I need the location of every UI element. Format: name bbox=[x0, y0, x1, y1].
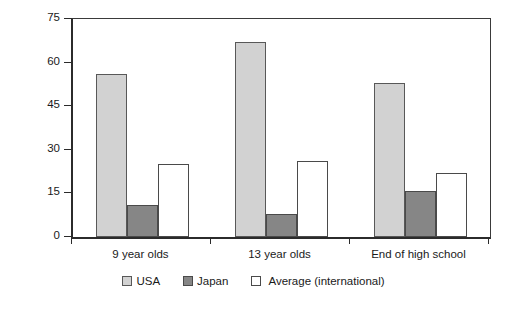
legend-item-label: Japan bbox=[197, 275, 228, 287]
y-axis-tick-label: 60 bbox=[32, 56, 60, 68]
y-axis-tick bbox=[64, 192, 71, 193]
bar-japan-group-2 bbox=[405, 191, 436, 238]
y-axis-tick-label: 45 bbox=[32, 99, 60, 111]
y-axis-tick bbox=[64, 105, 71, 106]
chart-legend: USAJapanAverage (international) bbox=[0, 275, 507, 287]
legend-item-usa[interactable]: USA bbox=[122, 275, 160, 287]
x-axis-tick bbox=[71, 238, 72, 244]
x-axis-category-label: 13 year olds bbox=[248, 248, 311, 260]
y-axis-tick-label: 75 bbox=[32, 12, 60, 24]
y-axis-tick bbox=[64, 149, 71, 150]
bar-japan-group-1 bbox=[266, 214, 297, 237]
legend-item-label: USA bbox=[136, 275, 160, 287]
y-axis-tick bbox=[64, 62, 71, 63]
bar-average-group-2 bbox=[436, 173, 467, 237]
bar-usa-group-2 bbox=[374, 83, 405, 237]
legend-item-japan[interactable]: Japan bbox=[183, 275, 228, 287]
y-axis-tick bbox=[64, 18, 71, 19]
y-axis-tick-label: 30 bbox=[32, 143, 60, 155]
x-axis-category-label: 9 year olds bbox=[112, 248, 168, 260]
japan-swatch bbox=[183, 276, 193, 286]
bar-japan-group-0 bbox=[127, 205, 158, 237]
x-axis-tick bbox=[488, 238, 489, 244]
plot-area bbox=[71, 18, 491, 239]
average-swatch bbox=[251, 276, 261, 286]
bar-chart: No. of Topics 01530456075 9 year olds13 … bbox=[0, 0, 507, 309]
x-axis-tick bbox=[210, 238, 211, 244]
bar-average-group-1 bbox=[297, 161, 328, 237]
bar-usa-group-0 bbox=[96, 74, 127, 237]
x-axis-category-label: End of high school bbox=[371, 248, 466, 260]
y-axis-tick-label: 0 bbox=[32, 230, 60, 242]
bar-average-group-0 bbox=[158, 164, 189, 237]
y-axis-tick bbox=[64, 236, 71, 237]
legend-item-average[interactable]: Average (international) bbox=[251, 275, 384, 287]
x-axis-tick bbox=[349, 238, 350, 244]
legend-item-label: Average (international) bbox=[268, 275, 384, 287]
usa-swatch bbox=[122, 276, 132, 286]
bar-usa-group-1 bbox=[235, 42, 266, 237]
y-axis-tick-label: 15 bbox=[32, 187, 60, 199]
